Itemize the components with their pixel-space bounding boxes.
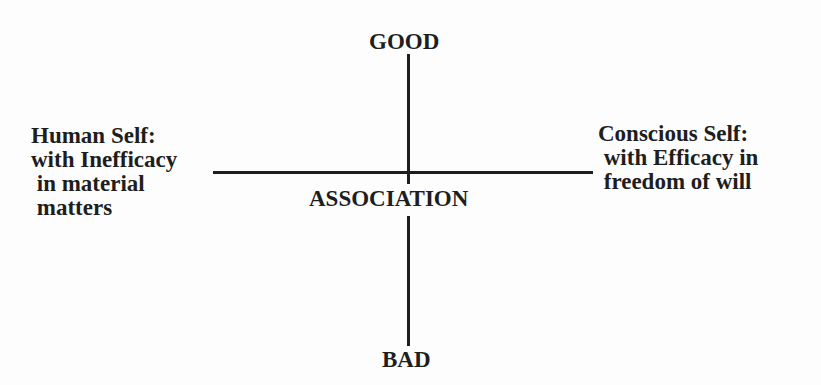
horizontal-axis xyxy=(213,171,593,174)
vertical-axis-lower xyxy=(407,216,410,346)
vertical-axis-upper xyxy=(407,54,410,184)
good-label: GOOD xyxy=(369,30,439,54)
bad-label: BAD xyxy=(382,348,431,372)
association-label: ASSOCIATION xyxy=(309,187,468,211)
